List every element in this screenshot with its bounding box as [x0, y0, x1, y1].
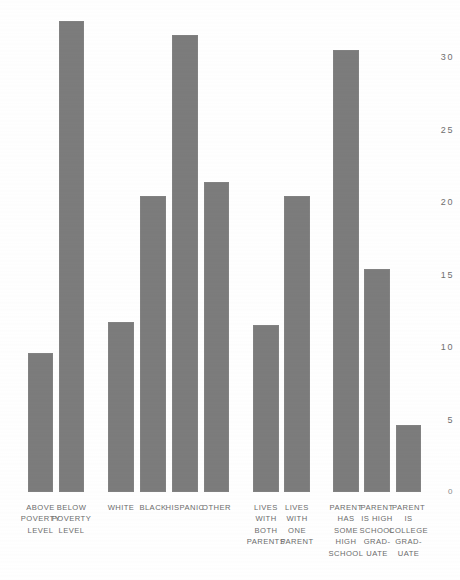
plot-area	[0, 0, 460, 492]
bar	[108, 322, 134, 492]
bar	[172, 35, 198, 492]
bar	[364, 269, 390, 492]
x-axis-category-label: BELOW POVERTY LEVEL	[50, 502, 94, 536]
x-axis-category-label: PARENT IS COLLEGE GRAD- UATE	[387, 502, 431, 559]
x-axis-category-label: OTHER	[195, 502, 239, 513]
bar	[333, 50, 359, 492]
bar	[396, 425, 421, 492]
y-axis-tick-label: 5	[447, 415, 454, 425]
y-axis-tick-label: 10	[441, 342, 454, 352]
y-axis-tick-label: 20	[441, 197, 454, 207]
y-axis-tick-label: 25	[441, 125, 454, 135]
x-axis-category-label: LIVES WITH ONE PARENT	[275, 502, 319, 548]
y-axis-tick-label: 15	[441, 270, 454, 280]
bar-chart: 051015202530 ABOVE POVERTY LEVELBELOW PO…	[0, 0, 460, 580]
bar	[204, 182, 229, 492]
y-axis-tick-label: 30	[441, 52, 454, 62]
bar	[253, 325, 279, 492]
bar	[140, 196, 166, 492]
bar	[59, 21, 84, 492]
bar	[284, 196, 310, 492]
y-axis-tick-label: 0	[448, 487, 454, 497]
bar	[28, 353, 53, 492]
